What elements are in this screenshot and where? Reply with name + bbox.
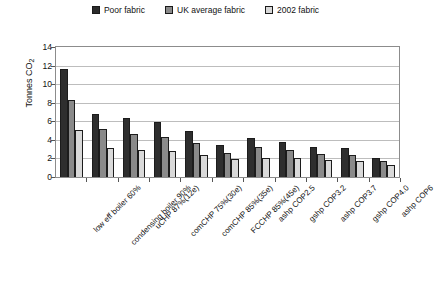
bar-group — [212, 47, 243, 177]
x-axis-tick-mark — [400, 178, 401, 182]
x-axis-labels: low eff boiler 60%condensing boiler 90%u… — [55, 182, 400, 287]
bar-group — [306, 47, 337, 177]
bar — [99, 129, 107, 177]
legend-item-uk-average-fabric: UK average fabric — [165, 6, 245, 15]
bar — [317, 154, 325, 177]
legend-swatch-icon — [165, 6, 173, 14]
bar — [169, 151, 177, 177]
bar — [356, 161, 364, 177]
bar — [185, 131, 193, 177]
bar — [349, 155, 357, 177]
bar-group — [337, 47, 368, 177]
bar — [294, 158, 302, 177]
bar — [60, 69, 68, 177]
legend-label: 2002 fabric — [277, 6, 319, 15]
legend-swatch-icon — [92, 6, 100, 14]
bar — [231, 159, 239, 177]
y-axis-tick-label: 4 — [22, 136, 52, 145]
bar — [310, 147, 318, 177]
bar-group — [243, 47, 274, 177]
bar — [216, 145, 224, 177]
bar — [75, 130, 83, 177]
bar-group — [56, 47, 87, 177]
bar-group — [150, 47, 181, 177]
x-axis-tick-label: low eff boiler 60% — [93, 184, 143, 234]
bar-group — [87, 47, 118, 177]
bar — [247, 138, 255, 177]
bar — [130, 134, 138, 177]
bar-group — [118, 47, 149, 177]
legend-swatch-icon — [265, 6, 273, 14]
bar — [68, 100, 76, 177]
bar-group — [368, 47, 399, 177]
bar-series-container — [56, 47, 399, 177]
bar — [123, 118, 131, 177]
bar — [193, 143, 201, 177]
bar — [138, 150, 146, 177]
y-axis-tick-label: 0 — [22, 173, 52, 182]
chart-legend: Poor fabric UK average fabric 2002 fabri… — [0, 6, 411, 15]
bar — [262, 158, 270, 178]
bar — [224, 153, 232, 177]
legend-label: UK average fabric — [177, 6, 245, 15]
bar — [107, 148, 115, 177]
bar-group — [181, 47, 212, 177]
bar — [255, 147, 263, 177]
legend-item-poor-fabric: Poor fabric — [92, 6, 145, 15]
y-axis-tick-label: 10 — [22, 80, 52, 89]
bar — [325, 160, 333, 177]
y-axis-tick-label: 2 — [22, 154, 52, 163]
bar — [161, 137, 169, 177]
bar — [200, 155, 208, 177]
y-axis-tick-label: 12 — [22, 62, 52, 71]
bar-group — [274, 47, 305, 177]
y-axis-tick-label: 14 — [22, 43, 52, 52]
bar — [286, 150, 294, 177]
legend-label: Poor fabric — [104, 6, 145, 15]
bar — [380, 161, 388, 177]
bar — [387, 165, 395, 177]
y-axis-tick-label: 6 — [22, 117, 52, 126]
bar — [279, 142, 287, 177]
legend-item-2002-fabric: 2002 fabric — [265, 6, 319, 15]
bar — [92, 114, 100, 177]
y-axis-tick-label: 8 — [22, 99, 52, 108]
bar — [341, 148, 349, 177]
bar — [154, 122, 162, 177]
bar — [372, 158, 380, 178]
